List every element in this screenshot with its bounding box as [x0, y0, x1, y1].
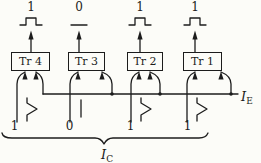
top-value-tr2: 1: [136, 1, 144, 13]
figure-strokes: [0, 0, 261, 163]
bottom-value-tr4: 1: [11, 120, 19, 132]
tr3-graphics: [70, 25, 114, 122]
tr2-bottom-pulse-waveform: [141, 98, 151, 121]
transistor-label-tr3: Tr 3: [75, 56, 98, 67]
tr1-top-pulse-waveform: [184, 18, 206, 25]
transistor-label-tr1: Tr 1: [191, 56, 214, 67]
transistor-box-tr4: Tr 4: [11, 52, 50, 71]
top-value-tr4: 1: [27, 1, 35, 13]
tr4-output-arrowhead-icon: [28, 31, 33, 40]
transistor-box-tr2: Tr 2: [127, 52, 163, 71]
transistor-label-tr4: Tr 4: [19, 56, 42, 67]
collector-brace: [2, 133, 208, 144]
tr1-right-lead: [221, 72, 231, 94]
tr3-output-arrowhead-icon: [76, 31, 81, 40]
top-value-tr1: 1: [191, 1, 199, 13]
collector-current-label: IC: [101, 144, 113, 163]
tr2-top-pulse-waveform: [129, 18, 151, 25]
tr4-top-pulse-waveform: [20, 18, 42, 25]
top-value-tr3: 0: [75, 1, 83, 13]
tr4-bottom-pulse-waveform: [27, 98, 37, 121]
tr1-bottom-pulse-waveform: [197, 98, 207, 121]
bottom-value-tr3: 0: [66, 120, 74, 132]
bottom-value-tr2: 1: [127, 120, 135, 132]
bottom-value-tr1: 1: [184, 120, 192, 132]
emitter-current-label: IE: [241, 86, 253, 106]
transistor-box-tr1: Tr 1: [183, 52, 222, 71]
transistor-array-figure: 1 0 1 1 Tr 4 Tr 3 Tr 2 Tr 1 1 0 1 1 IE I…: [0, 0, 261, 163]
tr2-output-arrowhead-icon: [137, 31, 142, 40]
tr3-right-lead: [102, 72, 112, 94]
transistor-box-tr3: Tr 3: [68, 52, 105, 71]
collector-current-subscript: C: [106, 154, 113, 163]
tr2-right-lead: [150, 72, 160, 94]
tr1-output-arrowhead-icon: [192, 31, 197, 40]
transistor-label-tr2: Tr 2: [133, 56, 156, 67]
emitter-current-subscript: E: [246, 96, 253, 106]
